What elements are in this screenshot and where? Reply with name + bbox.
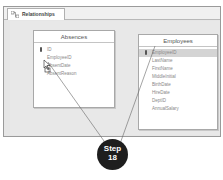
absences-table[interactable]: Absences ID EmployeeID AbsentDate Absent… — [33, 30, 115, 108]
relationships-icon — [11, 11, 19, 18]
field-employeeid[interactable]: EmployeeID — [139, 49, 217, 57]
relationships-window: Relationships Absences ID EmployeeID Abs… — [3, 6, 221, 137]
primary-key-icon — [145, 50, 147, 55]
step-callout-badge: Step 18 — [97, 139, 128, 170]
field-annualsalary[interactable]: AnnualSalary — [139, 105, 217, 113]
relationships-canvas[interactable]: Absences ID EmployeeID AbsentDate Absent… — [10, 21, 220, 135]
tab-label: Relationships — [22, 11, 55, 17]
field-birthdate[interactable]: BirthDate — [139, 81, 217, 89]
field-middleinitial[interactable]: MiddleInitial — [139, 73, 217, 81]
primary-key-icon — [40, 47, 42, 52]
field-absentreason[interactable]: AbsentReason — [34, 70, 114, 78]
employees-table[interactable]: Employees EmployeeID LastName FirstName … — [138, 34, 218, 130]
field-employeeid[interactable]: EmployeeID — [34, 54, 114, 62]
table-title[interactable]: Absences — [34, 31, 114, 43]
document-tab-strip: Relationships — [4, 7, 220, 20]
field-deptid[interactable]: DeptID — [139, 97, 217, 105]
field-lastname[interactable]: LastName — [139, 57, 217, 65]
table-title[interactable]: Employees — [139, 35, 217, 47]
field-absentdate[interactable]: AbsentDate — [34, 62, 114, 70]
field-id[interactable]: ID — [34, 46, 114, 54]
field-firstname[interactable]: FirstName — [139, 65, 217, 73]
tab-relationships[interactable]: Relationships — [7, 8, 65, 20]
field-hiredate[interactable]: HireDate — [139, 89, 217, 97]
